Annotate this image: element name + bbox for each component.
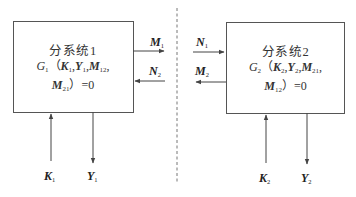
subsystem1-title: 分系统1 — [14, 44, 132, 59]
label-n1: N1 — [196, 35, 208, 50]
subsystem2-label: 分系统2 G2（K2,Y2,M21, M12）=0 — [227, 45, 344, 98]
label-k2: K2 — [259, 171, 270, 186]
label-n2: N2 — [149, 64, 161, 79]
label-m2: M2 — [195, 64, 209, 79]
subsystem1-equation-line1: G1（K1,Y1,M12, — [14, 59, 132, 78]
label-y1: Y1 — [87, 169, 98, 184]
label-k1: K1 — [44, 169, 55, 184]
diagram-canvas — [0, 0, 356, 197]
label-y2: Y2 — [301, 171, 312, 186]
subsystem2-title: 分系统2 — [227, 45, 344, 60]
subsystem1-equation-line2: M21）=0 — [14, 78, 132, 97]
subsystem2-equation-line1: G2（K2,Y2,M21, — [227, 60, 344, 79]
subsystem1-label: 分系统1 G1（K1,Y1,M12, M21）=0 — [14, 44, 132, 97]
subsystem2-equation-line2: M12）=0 — [227, 79, 344, 98]
label-m1: M1 — [150, 35, 164, 50]
